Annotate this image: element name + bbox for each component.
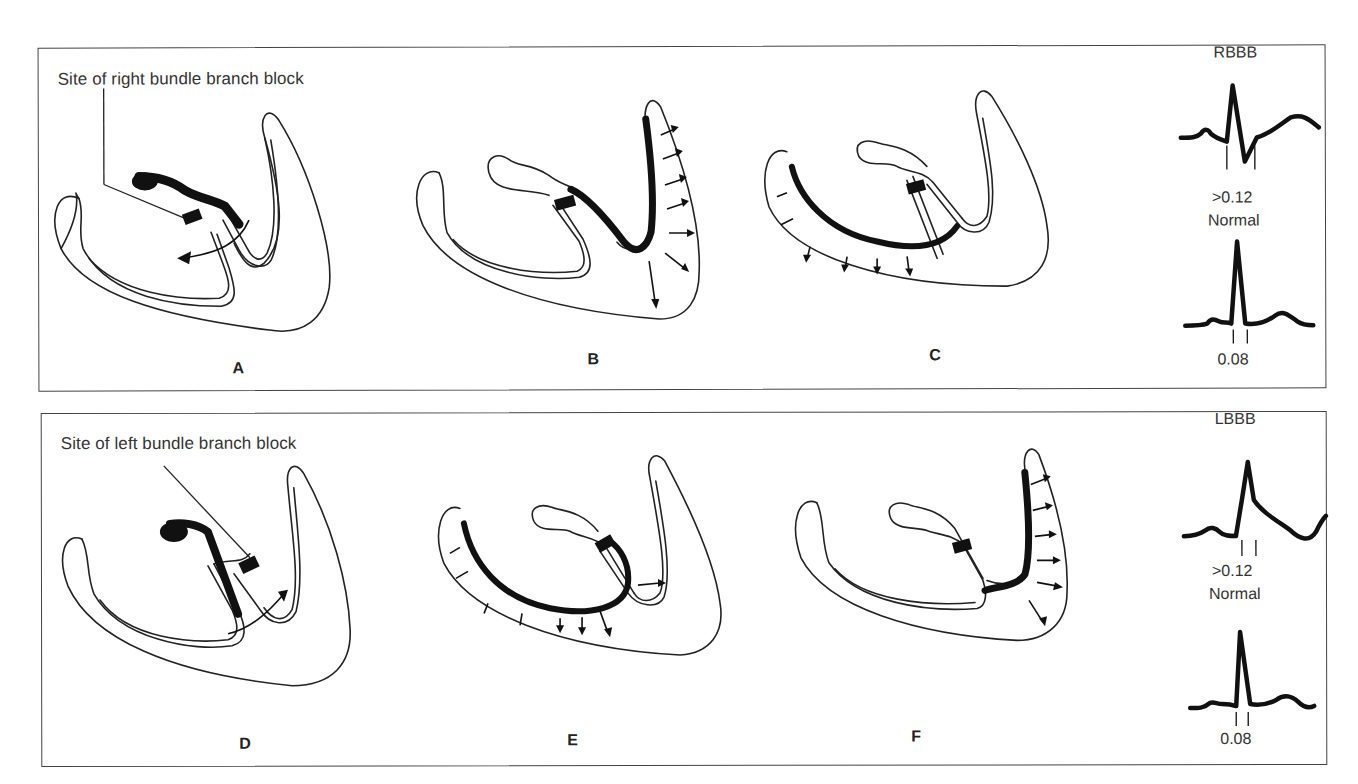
panel-label-f: F xyxy=(911,728,921,746)
panel-label-c: C xyxy=(929,346,941,364)
heart-e xyxy=(439,456,722,656)
depolarization-arrows-c xyxy=(777,192,913,276)
lbbb-panel: Site of left bundle branch block xyxy=(41,411,1328,767)
lbbb-normal-label: Normal xyxy=(1209,585,1261,603)
rbbb-normal-duration: 0.08 xyxy=(1217,351,1248,369)
panel-label-e: E xyxy=(567,731,578,749)
lbbb-heart-diagrams xyxy=(42,412,1327,766)
rbbb-label: RBBB xyxy=(1214,43,1258,61)
panel-label-a: A xyxy=(232,359,244,377)
lbbb-duration: >0.12 xyxy=(1212,562,1253,580)
rbbb-heart-diagrams xyxy=(39,45,1326,390)
panel-label-d: D xyxy=(239,735,251,753)
lbbb-normal-duration: 0.08 xyxy=(1220,730,1251,748)
heart-a xyxy=(55,113,330,332)
heart-c xyxy=(765,91,1049,287)
heart-f xyxy=(796,449,1068,641)
heart-b xyxy=(417,101,700,320)
heart-d xyxy=(62,466,350,686)
rbbb-duration: >0.12 xyxy=(1212,189,1253,207)
rbbb-normal-label: Normal xyxy=(1208,211,1260,229)
lbbb-label: LBBB xyxy=(1215,410,1256,428)
panel-label-b: B xyxy=(587,350,599,368)
rbbb-panel: Site of right bundle branch block xyxy=(38,44,1327,391)
depolarization-arrows-b xyxy=(649,125,695,309)
depolarization-arrows-f xyxy=(1029,474,1063,626)
